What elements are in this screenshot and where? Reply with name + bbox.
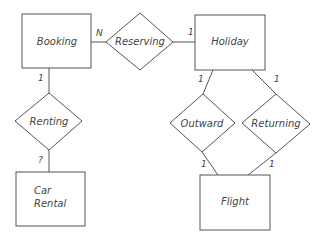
entity-booking: Booking [22,14,91,68]
cardinality-flight-returning: 1 [269,159,275,169]
entity-flight-label: Flight [221,196,250,207]
relationship-returning-label: Returning [251,118,300,129]
entity-holiday: Holiday [195,15,265,70]
relationship-returning: Returning [242,94,310,153]
edge-holiday-returning [252,70,276,94]
cardinality-flight-outward: 1 [201,159,207,169]
relationship-reserving: Reserving [106,13,173,70]
cardinality-holiday-returning: 1 [274,74,280,84]
relationship-reserving-label: Reserving [115,36,165,47]
cardinality-booking-reserving: N [96,28,103,38]
entity-flight: Flight [200,175,270,230]
edge-holiday-outward [203,70,213,94]
relationship-outward-label: Outward [181,118,225,129]
entity-car-rental-label-line2: Rental [34,198,66,209]
entity-car-rental: Car Rental [16,172,85,226]
cardinality-carrental-renting: ? [38,155,43,165]
relationship-renting: Renting [15,93,82,150]
entity-car-rental-label-line1: Car [34,185,52,196]
cardinality-holiday-reserving: 1 [188,27,194,37]
cardinality-holiday-outward: 1 [198,74,204,84]
relationship-outward: Outward [170,94,235,152]
entity-holiday-label: Holiday [211,36,250,47]
cardinality-booking-renting: 1 [38,73,44,83]
entity-booking-label: Booking [37,36,77,47]
er-diagram: Booking Reserving Holiday Renting Car Re… [0,0,324,238]
relationship-renting-label: Renting [30,116,69,127]
